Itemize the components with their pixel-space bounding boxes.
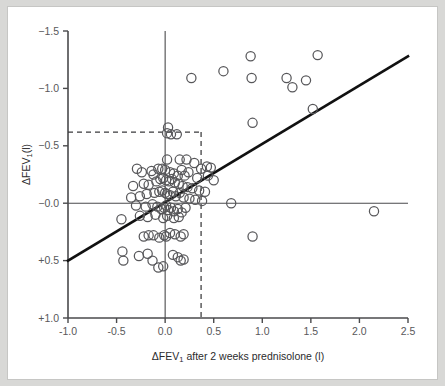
data-point	[117, 215, 126, 224]
data-point	[246, 52, 255, 61]
data-point	[128, 181, 137, 190]
data-point	[134, 251, 143, 260]
data-point	[193, 173, 202, 182]
data-point	[248, 232, 257, 241]
data-point	[162, 155, 171, 164]
data-point	[301, 76, 310, 85]
tick-labels-layer: −1.5−1.0−0.5−0.0+0.5+1.0-1.0-0.50.00.51.…	[38, 25, 415, 337]
data-point	[282, 73, 291, 82]
data-point	[118, 247, 127, 256]
y-tick-label: −1.5	[38, 25, 59, 37]
data-point	[209, 176, 218, 185]
axes-layer	[63, 31, 408, 323]
y-tick-label: +1.0	[38, 312, 59, 324]
x-tick-label: 1.5	[304, 325, 319, 337]
data-point	[247, 73, 256, 82]
y-tick-label: −0.5	[38, 139, 59, 151]
x-tick-label: -1.0	[59, 325, 77, 337]
reference-lines-layer	[68, 31, 408, 318]
data-point	[200, 187, 209, 196]
x-tick-label: -0.5	[108, 325, 126, 337]
data-point	[119, 256, 128, 265]
dashed-threshold-layer	[68, 132, 201, 318]
y-tick-label: −1.0	[38, 82, 59, 94]
data-point	[197, 196, 206, 205]
data-points-layer	[117, 51, 379, 273]
figure-panel: −1.5−1.0−0.5−0.0+0.5+1.0-1.0-0.50.00.51.…	[8, 7, 437, 379]
x-tick-label: 0.5	[206, 325, 221, 337]
data-point	[172, 130, 181, 139]
x-tick-label: 2.5	[401, 325, 416, 337]
x-tick-label: 0.0	[158, 325, 173, 337]
y-axis-title: ΔFEV1(l)	[20, 144, 34, 185]
data-point	[288, 83, 297, 92]
data-point	[176, 232, 185, 241]
regression-line	[68, 56, 408, 260]
data-point	[179, 255, 188, 264]
scatter-plot: −1.5−1.0−0.5−0.0+0.5+1.0-1.0-0.50.00.51.…	[8, 7, 437, 379]
data-point	[179, 230, 188, 239]
data-point	[131, 201, 140, 210]
y-tick-label: −0.0	[38, 197, 59, 209]
regression-line-layer	[68, 56, 408, 260]
data-point	[219, 67, 228, 76]
data-point	[187, 73, 196, 82]
data-point	[313, 51, 322, 60]
x-tick-label: 1.0	[255, 325, 270, 337]
x-axis-title: ΔFEV1 after 2 weeks prednisolone (l)	[152, 350, 324, 364]
data-point	[369, 207, 378, 216]
y-tick-label: +0.5	[38, 254, 59, 266]
data-point	[248, 118, 257, 127]
x-tick-label: 2.0	[352, 325, 367, 337]
